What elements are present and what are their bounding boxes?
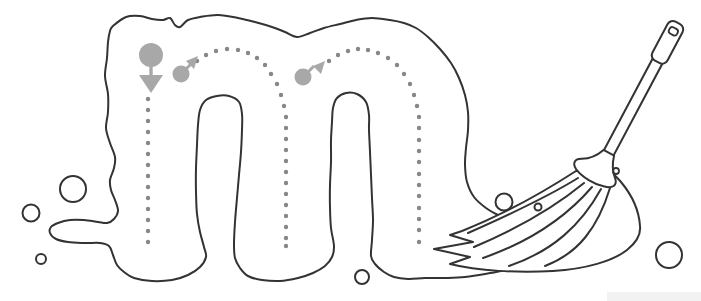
guide-dot [275, 82, 279, 86]
guide-dot [246, 51, 250, 55]
guide-dot [417, 217, 421, 221]
guide-dot [417, 206, 421, 210]
guide-dot [146, 141, 150, 145]
guide-dot [146, 152, 150, 156]
bubble-circle [36, 254, 46, 264]
guide-dot [146, 207, 150, 211]
guide-dot [146, 108, 150, 112]
guide-dot [417, 194, 421, 198]
bubble-circle [535, 204, 542, 211]
mop-handle-cap [650, 19, 686, 66]
guide-dot [284, 225, 288, 229]
bubble-circle [656, 242, 682, 268]
worksheet-canvas [0, 0, 701, 301]
guide-dot [284, 159, 288, 163]
guide-dot [284, 137, 288, 141]
guide-dot [376, 51, 380, 55]
guide-dot [395, 63, 399, 67]
watermark-strip [607, 292, 701, 301]
bubble-circle [496, 194, 513, 211]
guide-dot [269, 72, 273, 76]
mop-shaft [601, 57, 663, 161]
guide-dot [327, 59, 331, 63]
guide-dot [415, 104, 419, 108]
guide-dot [386, 56, 390, 60]
guide-dot [417, 228, 421, 232]
guide-dot [417, 160, 421, 164]
letter-m-blob-outline [50, 15, 532, 281]
guide-dot [255, 56, 259, 60]
bubble-circle [355, 270, 369, 284]
guide-dot [146, 163, 150, 167]
guide-dot [146, 185, 150, 189]
guide-dot [356, 47, 360, 51]
guide-dot [146, 196, 150, 200]
guide-dot [412, 93, 416, 97]
guide-dot [146, 130, 150, 134]
guide-dot [146, 97, 150, 101]
guide-dot [402, 72, 406, 76]
worksheet-svg [0, 0, 701, 301]
guide-dot [417, 115, 421, 119]
guide-dot [417, 183, 421, 187]
guide-dot [146, 218, 150, 222]
guide-dot [146, 119, 150, 123]
guide-dot [236, 48, 240, 52]
guide-dot [284, 236, 288, 240]
guide-dot [282, 104, 286, 108]
guide-dot [146, 240, 150, 244]
guide-dot [417, 240, 421, 244]
guide-dot [417, 149, 421, 153]
indicator-dot [139, 43, 163, 67]
guide-dot [417, 126, 421, 130]
mop-handle [598, 19, 685, 162]
guide-dot [284, 170, 288, 174]
guide-dot [366, 48, 370, 52]
guide-dot [284, 181, 288, 185]
guide-dot [284, 203, 288, 207]
guide-dot [146, 174, 150, 178]
guide-dot [225, 47, 229, 51]
mop-illustration [434, 19, 685, 272]
guide-dot [284, 126, 288, 130]
guide-dot [263, 63, 267, 67]
guide-dot [284, 192, 288, 196]
guide-dot [408, 82, 412, 86]
guide-dot [284, 115, 288, 119]
bubble-circle [60, 176, 86, 202]
bubble-circle [23, 205, 40, 222]
guide-dot [284, 244, 288, 248]
guide-dot [284, 214, 288, 218]
guide-dot [279, 93, 283, 97]
guide-dot [284, 148, 288, 152]
guide-dot [146, 229, 150, 233]
guide-dot [336, 53, 340, 57]
guide-dot [214, 49, 218, 53]
guide-dot [417, 138, 421, 142]
guide-dot [204, 53, 208, 57]
guide-dot [417, 172, 421, 176]
guide-dot [346, 49, 350, 53]
